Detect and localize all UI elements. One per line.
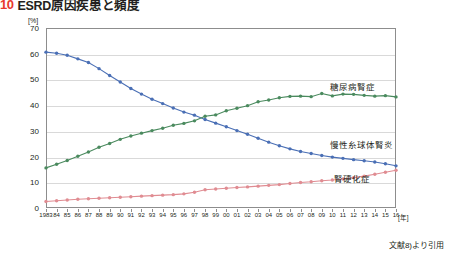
x-axis-tick-label: 08 xyxy=(308,212,315,218)
data-point xyxy=(66,54,69,57)
data-point xyxy=(119,138,122,141)
data-point xyxy=(267,140,270,143)
x-axis-tick-label: 92 xyxy=(138,212,145,218)
data-point xyxy=(394,164,397,167)
data-point xyxy=(140,92,143,95)
data-point xyxy=(320,154,323,157)
data-point xyxy=(341,92,344,95)
figure-title: 10 ESRD原因疾患と頻度 xyxy=(0,0,140,12)
data-point xyxy=(278,183,281,186)
data-point xyxy=(203,115,206,118)
data-point xyxy=(193,191,196,194)
data-point xyxy=(309,95,312,98)
data-point xyxy=(214,187,217,190)
data-point xyxy=(161,102,164,105)
data-point xyxy=(225,109,228,112)
x-axis-unit: [年] xyxy=(398,212,409,222)
data-point xyxy=(214,113,217,116)
data-point xyxy=(235,107,238,110)
x-axis-tick-label: 15 xyxy=(382,212,389,218)
data-point xyxy=(384,162,387,165)
data-point xyxy=(87,61,90,64)
data-point xyxy=(97,146,100,149)
data-point xyxy=(66,198,69,201)
data-point xyxy=(362,94,365,97)
data-point xyxy=(299,94,302,97)
data-point xyxy=(129,87,132,90)
data-point xyxy=(246,185,249,188)
data-point xyxy=(172,124,175,127)
data-point xyxy=(384,94,387,97)
y-axis-tick-label: 40 xyxy=(30,101,39,110)
data-point xyxy=(150,98,153,101)
y-axis-tick-label: 50 xyxy=(30,75,39,84)
data-point xyxy=(182,122,185,125)
data-point xyxy=(278,96,281,99)
data-point xyxy=(225,125,228,128)
x-axis-tick-label: 91 xyxy=(128,212,135,218)
data-point xyxy=(214,121,217,124)
data-point xyxy=(55,163,58,166)
data-point xyxy=(76,198,79,201)
figure-number: 10 xyxy=(0,0,13,12)
data-point xyxy=(97,197,100,200)
data-point xyxy=(341,157,344,160)
x-axis-tick-label: 09 xyxy=(318,212,325,218)
y-axis-tick-label: 10 xyxy=(30,178,39,187)
data-point xyxy=(193,113,196,116)
series-糖尿病腎症 xyxy=(44,92,397,170)
data-point xyxy=(246,104,249,107)
data-point xyxy=(108,196,111,199)
data-point xyxy=(203,118,206,121)
y-axis-labels: 010203040506070 xyxy=(0,28,44,208)
data-point xyxy=(373,173,376,176)
data-point xyxy=(320,92,323,95)
data-point xyxy=(140,194,143,197)
x-axis-tick-label: 07 xyxy=(297,212,304,218)
data-point xyxy=(394,169,397,172)
x-axis-tick-label: 03 xyxy=(255,212,262,218)
data-point xyxy=(246,133,249,136)
data-point xyxy=(182,110,185,113)
data-point xyxy=(44,166,47,169)
x-axis-tick-label: 90 xyxy=(117,212,124,218)
x-axis-tick-label: 88 xyxy=(96,212,103,218)
data-point xyxy=(76,57,79,60)
data-point xyxy=(172,193,175,196)
data-point xyxy=(66,159,69,162)
x-axis-tick-label: 06 xyxy=(287,212,294,218)
data-point xyxy=(119,196,122,199)
y-axis-tick-label: 20 xyxy=(30,152,39,161)
x-axis-tick-label: 11 xyxy=(340,212,346,218)
x-axis-tick-label: 96 xyxy=(181,212,188,218)
data-point xyxy=(203,188,206,191)
x-axis-tick-label: 86 xyxy=(74,212,81,218)
data-point xyxy=(320,179,323,182)
x-axis-tick-label: 05 xyxy=(276,212,283,218)
data-point xyxy=(394,95,397,98)
x-axis-tick-label: 14 xyxy=(371,212,378,218)
chart-figure: 10 ESRD原因疾患と頻度 [%] 010203040506070 19838… xyxy=(0,0,452,255)
x-axis-tick-label: 02 xyxy=(244,212,251,218)
x-axis-tick-label: 93 xyxy=(149,212,156,218)
x-axis-tick-label: 10 xyxy=(329,212,336,218)
data-point xyxy=(267,98,270,101)
data-point xyxy=(44,50,47,53)
x-axis-tick-label: 98 xyxy=(202,212,209,218)
data-point xyxy=(87,150,90,153)
data-point xyxy=(55,52,58,55)
data-point xyxy=(256,100,259,103)
data-point xyxy=(288,147,291,150)
data-point xyxy=(235,186,238,189)
data-point xyxy=(362,159,365,162)
x-axis-tick-label: 12 xyxy=(350,212,357,218)
data-point xyxy=(119,80,122,83)
x-axis-tick-label: 97 xyxy=(191,212,198,218)
x-axis-tick-label: 00 xyxy=(223,212,230,218)
x-axis-tick-label: 13 xyxy=(361,212,368,218)
y-axis-tick-label: 60 xyxy=(30,49,39,58)
series-label-nephrosclerosis: 腎硬化症 xyxy=(334,172,370,184)
data-point xyxy=(352,158,355,161)
data-point xyxy=(150,129,153,132)
data-point xyxy=(97,67,100,70)
